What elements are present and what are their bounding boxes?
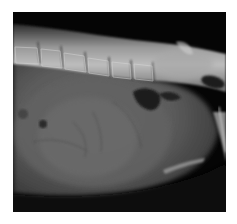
xray-radiograph: [13, 12, 226, 212]
image-frame: [0, 0, 237, 224]
xray-drawing: [13, 12, 226, 212]
